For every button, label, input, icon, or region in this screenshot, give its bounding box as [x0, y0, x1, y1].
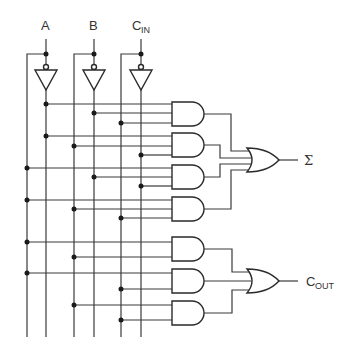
full-adder-diagram: A B C IN — [0, 0, 349, 357]
or-gate-cout — [247, 269, 279, 293]
output-label-cout: C OUT — [306, 274, 335, 291]
and-gate-1 — [172, 102, 204, 126]
and-gate-4 — [172, 197, 204, 221]
svg-text:C: C — [132, 18, 141, 33]
svg-text:C: C — [306, 274, 315, 289]
and-input-wires — [25, 102, 173, 323]
and-gate-2 — [172, 133, 204, 157]
inverter-a — [35, 65, 57, 91]
svg-text:OUT: OUT — [315, 281, 335, 291]
and-gate-7 — [172, 301, 204, 325]
input-label-b: B — [89, 18, 98, 33]
inverted-rails — [46, 90, 141, 337]
and-gate-6 — [172, 269, 204, 293]
output-label-sum: Σ — [304, 153, 313, 168]
and-gates — [172, 102, 204, 325]
or-input-wires — [204, 114, 251, 313]
or-gate-sum — [247, 148, 279, 172]
inverter-b — [83, 65, 105, 91]
inverter-cin — [130, 65, 152, 91]
input-label-cin: C IN — [132, 18, 150, 35]
and-gate-5 — [172, 237, 204, 261]
and-gate-3 — [172, 165, 204, 189]
svg-text:IN: IN — [141, 25, 150, 35]
input-label-a: A — [41, 18, 50, 33]
